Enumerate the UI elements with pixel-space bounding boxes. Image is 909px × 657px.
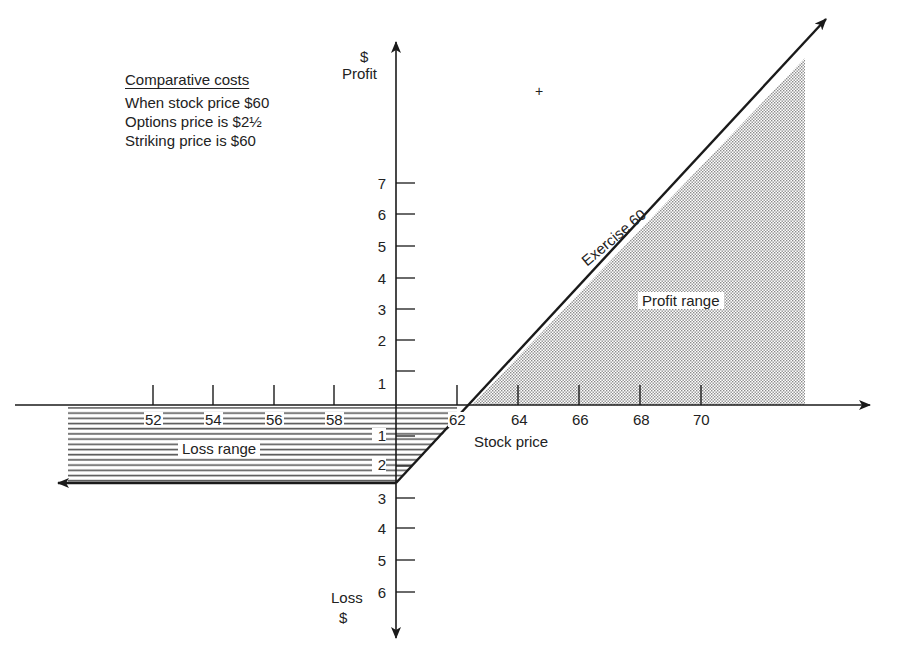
y-tick-label-loss: 3	[372, 491, 386, 506]
notes-line-2: Options price is $2½	[125, 113, 262, 130]
loss-range-region	[68, 407, 457, 483]
y-ticks	[396, 183, 415, 592]
y-label-dollar-bottom: $	[339, 610, 347, 625]
y-tick-label: 5	[372, 239, 386, 254]
x-tick-label: 70	[692, 412, 711, 427]
y-label-dollar-top: $	[360, 49, 368, 64]
y-label-loss: Loss	[331, 590, 363, 605]
comparative-costs-notes: Comparative costs When stock price $60 O…	[125, 70, 269, 150]
notes-title: Comparative costs	[125, 70, 249, 89]
x-tick-label: 64	[510, 412, 529, 427]
profit-range-label: Profit range	[638, 292, 724, 309]
y-tick-label-loss: 1	[372, 428, 386, 443]
y-tick-label-loss: 5	[372, 553, 386, 568]
x-tick-label: 54	[204, 412, 223, 427]
y-label-profit: Profit	[342, 66, 377, 81]
y-tick-label: 7	[372, 176, 386, 191]
x-tick-label: 66	[571, 412, 590, 427]
x-tick-label: 68	[632, 412, 651, 427]
x-tick-label: 52	[144, 412, 163, 427]
y-tick-label: 4	[372, 271, 386, 286]
x-tick-label: 62	[448, 412, 467, 427]
y-tick-label: 2	[372, 333, 386, 348]
notes-line-1: When stock price $60	[125, 94, 269, 111]
y-tick-label: 6	[372, 207, 386, 222]
loss-range-label: Loss range	[178, 440, 260, 457]
y-tick-label-loss: 4	[372, 521, 386, 536]
profit-range-region	[472, 58, 805, 405]
notes-line-3: Striking price is $60	[125, 132, 256, 149]
y-tick-label: 3	[372, 302, 386, 317]
x-tick-label: 56	[265, 412, 284, 427]
crosshair-mark: +	[535, 84, 543, 98]
y-tick-label: 1	[372, 376, 386, 391]
x-axis-label-stock-price: Stock price	[474, 434, 548, 449]
y-tick-label-loss: 2	[372, 457, 386, 472]
x-tick-label: 58	[325, 412, 344, 427]
y-tick-label-loss: 6	[372, 585, 386, 600]
